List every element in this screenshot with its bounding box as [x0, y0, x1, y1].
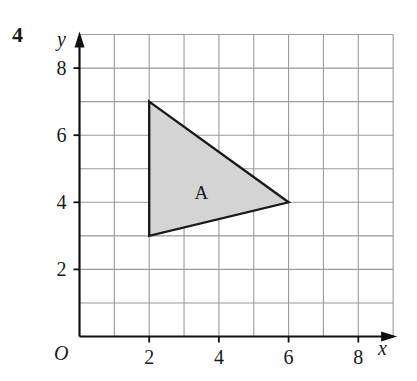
x-tick-label: 2 — [144, 346, 154, 368]
labels: 4 y x O A — [12, 22, 387, 364]
x-tick-label: 8 — [353, 346, 363, 368]
y-tick-label: 8 — [57, 57, 67, 79]
y-tick-label: 4 — [57, 191, 67, 213]
question-number: 4 — [12, 22, 23, 47]
x-tick-label: 4 — [214, 346, 224, 368]
coordinate-grid-diagram: 24682468 4 y x O A — [0, 0, 417, 381]
y-tick-label: 6 — [57, 124, 67, 146]
x-tick-label: 6 — [284, 346, 294, 368]
x-axis-label: x — [377, 337, 387, 359]
y-tick-label: 2 — [57, 258, 67, 280]
y-axis-label: y — [55, 28, 66, 51]
y-axis-arrow-icon — [75, 32, 85, 48]
origin-label: O — [54, 342, 68, 364]
triangle-a-label: A — [195, 182, 209, 203]
